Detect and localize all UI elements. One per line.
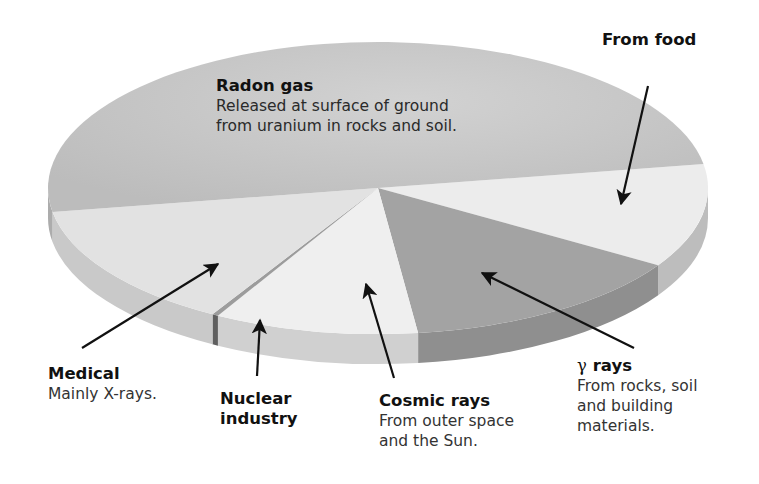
label-medical-title: Medical	[48, 364, 157, 384]
label-gamma-rays: γ rays From rocks, soil and building mat…	[577, 356, 697, 436]
label-cosmic-rays: Cosmic rays From outer space and the Sun…	[379, 391, 514, 451]
label-radon-title: Radon gas	[216, 76, 457, 96]
label-nuclear-title-2: industry	[220, 409, 298, 429]
label-gamma-title: γ rays	[577, 356, 697, 376]
label-food-title: From food	[602, 30, 696, 50]
label-medical: Medical Mainly X-rays.	[48, 364, 157, 404]
label-medical-desc: Mainly X-rays.	[48, 384, 157, 404]
label-nuclear-industry: Nuclear industry	[220, 389, 298, 429]
label-radon-desc: Released at surface of ground from urani…	[216, 96, 457, 136]
label-radon-gas: Radon gas Released at surface of ground …	[216, 76, 457, 136]
gamma-symbol: γ	[577, 356, 587, 375]
pie-side-nuclear	[213, 314, 218, 345]
label-from-food: From food	[602, 30, 696, 50]
label-cosmic-title: Cosmic rays	[379, 391, 514, 411]
label-cosmic-desc: From outer space and the Sun.	[379, 411, 514, 451]
label-gamma-title-text: rays	[593, 356, 632, 375]
label-gamma-desc: From rocks, soil and building materials.	[577, 376, 697, 436]
label-nuclear-title-1: Nuclear	[220, 389, 298, 409]
